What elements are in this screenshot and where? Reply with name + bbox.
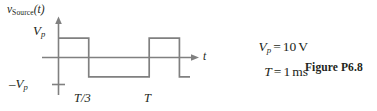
x-axis-arrowhead: [191, 54, 199, 61]
given-vp-value: 10: [283, 39, 297, 54]
y-axis-label-argument: (t): [34, 3, 45, 15]
y-axis-arrowhead: [55, 17, 62, 25]
x-tick-label-t-period: T: [144, 92, 151, 105]
y-axis-label-subscript: Source: [12, 8, 34, 17]
y-tick-label-vp: Vp: [33, 24, 45, 39]
y-axis-label: vSource(t): [7, 4, 45, 17]
figure-caption: Figure P6.8: [305, 61, 363, 73]
y-tick-label-neg-vp: –Vp: [9, 77, 28, 92]
given-value-vp: Vp=10V: [222, 40, 308, 55]
y-axis: [55, 17, 62, 96]
given-vp-equals: =: [271, 39, 283, 54]
x-axis: [42, 54, 199, 61]
given-t-symbol: T: [264, 64, 272, 79]
given-vp-symbol: V: [258, 39, 266, 54]
given-t-equals: =: [272, 64, 284, 79]
given-values-block: Vp=10V T=1ms: [222, 40, 308, 79]
x-tick-label-t-over-3: T/3: [74, 92, 91, 105]
vp-symbol: V: [33, 23, 41, 38]
given-vp-unit: V: [296, 39, 308, 54]
vp-subscript: p: [41, 29, 45, 39]
neg-vp-subscript: p: [23, 82, 27, 92]
waveform-plot: [0, 0, 377, 111]
figure-p6-8: vSource(t) Vp –Vp t T/3 T Vp=10V T=1ms F…: [0, 0, 377, 111]
given-value-period: T=1ms: [222, 65, 308, 79]
x-axis-label: t: [203, 51, 206, 63]
